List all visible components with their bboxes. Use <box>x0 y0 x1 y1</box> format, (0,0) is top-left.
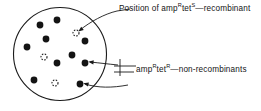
non-recombinant-label-mid: tet <box>157 65 167 74</box>
arrow-to-nonrecombinant-upper-shaft <box>90 62 118 65</box>
colony-filled-4 <box>24 44 31 51</box>
colony-filled-8 <box>82 60 89 67</box>
arrow-to-nonrecombinant-upper-head <box>88 60 94 65</box>
colony-filled-3 <box>43 36 50 43</box>
colony-filled-1 <box>37 22 44 29</box>
arrow-to-nonrecombinant-lower-shaft <box>85 84 128 87</box>
colony-open-2 <box>41 54 47 60</box>
recombinant-label-suffix: —recombinant <box>195 4 250 13</box>
colony-filled-10 <box>77 81 84 88</box>
colony-filled-5 <box>82 38 89 45</box>
filled-colony-group <box>24 17 89 88</box>
arrow-to-nonrecombinant-lower-head <box>83 81 89 86</box>
colony-filled-7 <box>54 60 61 67</box>
colony-filled-9 <box>31 77 38 84</box>
colony-filled-6 <box>69 52 76 59</box>
petri-dish-figure: Position of ampRtetS—recombinant ampRtet… <box>0 0 261 111</box>
recombinant-label: Position of ampRtetS—recombinant <box>119 5 250 13</box>
non-recombinant-label: ampRtetR—non-recombinants <box>136 66 247 74</box>
colony-open-1 <box>73 30 79 36</box>
non-recombinant-label-prefix: amp <box>136 65 152 74</box>
non-recombinant-label-suffix: —non-recombinants <box>170 65 246 74</box>
figure-canvas <box>0 0 261 111</box>
leader-line-group <box>114 9 136 76</box>
recombinant-label-prefix: Position of amp <box>119 4 178 13</box>
colony-filled-2 <box>54 17 61 24</box>
colony-open-3 <box>52 80 58 86</box>
